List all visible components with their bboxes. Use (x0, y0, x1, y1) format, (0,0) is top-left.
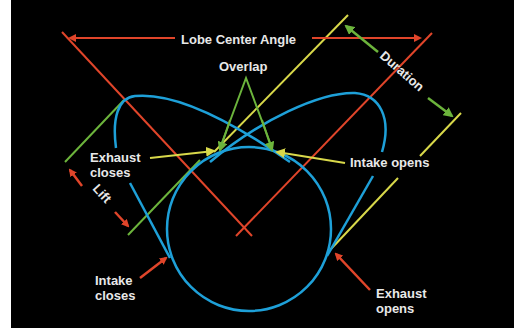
label-lobe-center-angle: Lobe Center Angle (181, 32, 296, 47)
lift-arrow-up (70, 170, 82, 186)
cam-diagram: Lobe Center Angle Overlap Duration Exhau… (0, 0, 522, 334)
label-intake-opens: Intake opens (350, 155, 429, 170)
base-circle (167, 147, 331, 311)
overlap-arrow-left (220, 120, 230, 150)
label-exhaust-closes-line1: Exhaust (90, 150, 141, 165)
exhaust-lobe-flank (130, 183, 170, 258)
label-intake-closes-line2: closes (95, 288, 135, 303)
label-exhaust-opens-line1: Exhaust (376, 286, 427, 301)
timing-line-lower-b (330, 178, 398, 250)
cam-profile (115, 93, 386, 311)
lift-lines (65, 100, 200, 235)
duration-arrow-down (428, 98, 452, 116)
label-exhaust-closes-line2: closes (90, 165, 130, 180)
label-exhaust-opens-line2: opens (376, 301, 414, 316)
timing-line-lower-a (420, 113, 461, 156)
lift-arrow-down (115, 212, 128, 226)
label-duration: Duration (377, 48, 427, 94)
exhaust-closes-arrow (150, 151, 214, 158)
label-intake-closes-line1: Intake (95, 273, 133, 288)
intake-closes-arrow (140, 258, 166, 278)
label-lift: Lift (90, 181, 115, 207)
label-overlap: Overlap (219, 59, 267, 74)
intake-lobe-flank (327, 176, 373, 256)
exhaust-opens-arrow (336, 254, 370, 290)
